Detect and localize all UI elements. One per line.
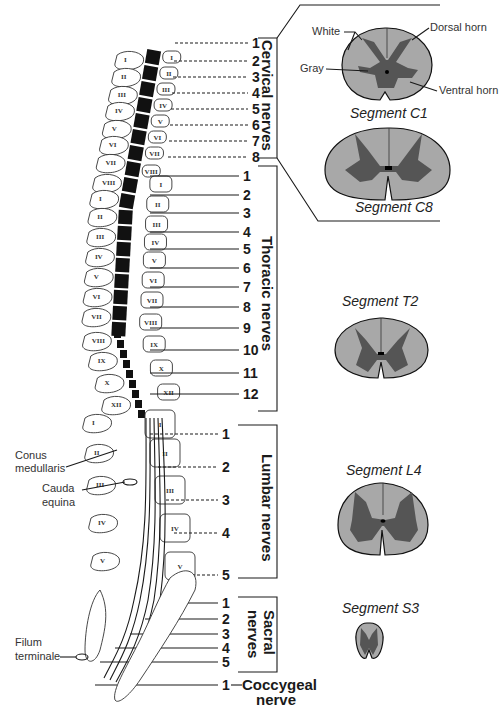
sacral-nerve-number: 1 <box>222 595 230 611</box>
cord-segment <box>118 210 133 225</box>
lumbar-nerve-number: 3 <box>222 492 230 508</box>
cervical-nerve-number: 2 <box>252 53 260 69</box>
vertebra-left-label: I <box>99 195 102 203</box>
vertebra-left <box>84 268 113 286</box>
lumbar-nerve-number: 5 <box>222 567 230 583</box>
dorsal-horn-label: Dorsal horn <box>430 21 487 33</box>
sacral-nerve-number: 2 <box>222 611 230 627</box>
lumbar-nerve-number: 1 <box>222 426 230 442</box>
sacral-nerve-number: 5 <box>222 654 230 670</box>
cervical-nerve-number: 8 <box>252 149 260 165</box>
vertebral-body-label: V <box>152 257 157 265</box>
conus-label-1: Conus <box>15 449 47 461</box>
vertebral-body-label: I <box>170 54 173 62</box>
segment-s3-title: Segment S3 <box>342 600 419 616</box>
segment-l4: Segment L4 <box>338 462 428 555</box>
cervical-nerve-number: 7 <box>252 133 260 149</box>
thoracic-nerve-number: 1 <box>243 168 251 184</box>
vertebral-body-label: IX <box>150 341 158 349</box>
cervical-label: Cervical nerves <box>259 40 276 151</box>
segment-t2-title: Segment T2 <box>342 293 418 309</box>
cervical-nerve-number: 5 <box>252 101 260 117</box>
vertebra-left <box>91 552 120 570</box>
vertebral-body-label: V <box>177 563 182 571</box>
white-label: White <box>312 25 340 37</box>
cervical-nerve-number: 3 <box>252 69 260 85</box>
vertebra-left-label: VI <box>92 293 100 301</box>
coccyx-left <box>85 590 106 661</box>
cervical-nerve-number: 4 <box>252 85 260 101</box>
vertebral-body-label: III <box>166 487 174 495</box>
thoracic-nerve-number: 3 <box>243 205 251 221</box>
vertebra-left-label: VII <box>91 313 102 321</box>
nerve-numbers: 123456781234567891011121234512345 <box>222 35 260 670</box>
cord-segment <box>117 226 132 241</box>
cord-segment <box>125 161 141 177</box>
thoracic-nerve-number: 9 <box>243 320 251 336</box>
vertebra-left-label: V <box>112 125 117 133</box>
vertebra-left-label: III <box>96 481 104 489</box>
vertebra-left <box>83 414 112 432</box>
vertebra-left-label: VIII <box>102 179 116 187</box>
vertebral-body-label: V <box>158 118 163 126</box>
vertebral-body-label: VII <box>149 150 160 158</box>
cord-segment <box>115 258 130 273</box>
vertebra-left-label: IV <box>98 519 106 527</box>
cord-segment <box>145 49 161 65</box>
sacral-label-2: nerves <box>245 610 262 658</box>
filum-label-2: terminale <box>15 650 60 662</box>
cervical-nerve-number: 6 <box>252 117 260 133</box>
vertebral-body-label: VII <box>147 297 158 305</box>
thoracic-nerve-number: 2 <box>243 187 251 203</box>
vertebra-left-label: VI <box>109 141 117 149</box>
vertebral-body-label: VIII <box>144 319 158 327</box>
vertebra-left-label: I <box>124 56 127 64</box>
cord-segment <box>116 242 131 257</box>
vertebra-left-label: V <box>100 557 105 565</box>
vertebra-left-label: VIII <box>92 337 106 345</box>
thoracic-nerve-number: 10 <box>243 342 259 358</box>
vertebra-left-label: V <box>94 273 99 281</box>
cervical-nerve-number: 1 <box>252 35 260 51</box>
segment-c1-title: Segment C1 <box>350 105 428 121</box>
segment-c8: Segment C8 <box>325 128 450 215</box>
vertebra-left <box>102 120 131 138</box>
vertebra-left-label: II <box>121 73 127 81</box>
segment-c1: White Gray Dorsal horn Ventral horn Segm… <box>300 21 498 121</box>
segment-s3: Segment S3 <box>342 600 419 658</box>
vertebral-body-label: I <box>160 181 163 189</box>
vertebra-left-label: IV <box>115 107 123 115</box>
cord-segment <box>113 290 128 305</box>
cord-segment <box>130 129 146 145</box>
cauda-label-1: Cauda <box>42 482 75 494</box>
thoracic-nerve-number: 5 <box>243 241 251 257</box>
cord-segment <box>135 400 142 408</box>
cauda-label-2: equina <box>42 496 76 508</box>
cord-segment <box>133 113 149 129</box>
vertebral-body-label: II <box>155 201 161 209</box>
cord-segment <box>142 65 158 81</box>
vertebral-body-label: X <box>159 365 164 373</box>
vertebral-body-label: III <box>162 86 170 94</box>
right-vertebral-bodies: IIIIIIIVVVIVIIVIIIIIIIIIIVVVIVIIVIIIIXXX… <box>140 51 195 580</box>
cord-segment <box>112 306 127 321</box>
vertebra-left-label: XII <box>111 401 122 409</box>
vertebra-left-label: X <box>104 379 109 387</box>
cord-segment <box>139 81 155 97</box>
cord-segment <box>117 340 124 348</box>
thoracic-label: Thoracic nerves <box>259 236 276 351</box>
vertebral-body-label: VIII <box>145 168 159 176</box>
cord-segment <box>128 145 144 161</box>
gray-label: Gray <box>300 62 324 74</box>
thoracic-nerve-number: 6 <box>243 260 251 276</box>
callout-top <box>277 5 440 38</box>
cord-segment <box>123 360 130 368</box>
cord-segment <box>114 330 121 338</box>
segment-t2: Segment T2 <box>335 293 428 378</box>
cord-segment <box>129 380 136 388</box>
spinal-cord-diagram: IIIIIIIVVVIVIIVIIIIIIIIIIVVVIVIIVIIIIXXX… <box>0 0 504 711</box>
conus-label-2: medullaris <box>15 462 66 474</box>
vertebral-body-label: III <box>152 221 160 229</box>
filum-label-1: Filum <box>15 636 42 648</box>
sacral-label-1: Sacral <box>261 610 278 655</box>
